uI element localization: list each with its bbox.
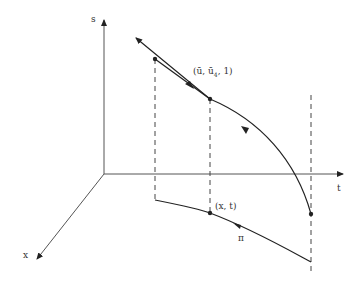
point-label-u-tail: , 1) — [218, 66, 233, 76]
point-u-bar — [208, 97, 212, 101]
upper-short-segment — [155, 59, 210, 99]
point-upper-end — [309, 212, 313, 216]
curve-label-pi: π — [238, 233, 244, 243]
diagram-canvas: s t x (ū, ū4, 1) (x, t) π — [0, 0, 361, 285]
point-label-u-bar: (ū, ū4, 1) — [193, 66, 233, 78]
x-axis — [37, 174, 104, 259]
point-x-t — [208, 211, 212, 215]
diagram-svg — [0, 0, 361, 285]
point-label-x-t: (x, t) — [215, 201, 236, 211]
point-upper-start — [153, 57, 157, 61]
s-axis-label: s — [91, 14, 96, 24]
upper-curve-direction-arrow — [241, 126, 249, 134]
x-axis-label: x — [23, 250, 28, 260]
t-axis-label: t — [337, 183, 341, 193]
point-label-u-text: (ū, ū — [193, 66, 214, 76]
